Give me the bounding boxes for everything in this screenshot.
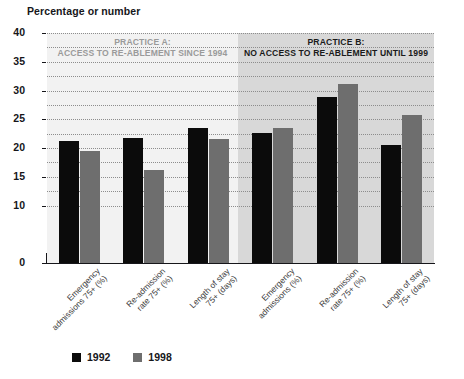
legend-swatch-1992	[72, 353, 81, 362]
y-axis-tick-label: 40	[0, 26, 25, 38]
bar-1998-group-5	[338, 84, 358, 263]
y-axis-tick-label: 0	[0, 256, 25, 268]
legend-label-1998: 1998	[148, 351, 171, 363]
gridline	[47, 91, 434, 92]
bar-1992-group-2	[123, 138, 143, 263]
chart-axis-title: Percentage or number	[27, 5, 140, 17]
bar-1992-group-4	[252, 133, 272, 263]
gridline	[47, 134, 434, 135]
x-axis-category-text: Re-admissionrate 75+ (%)	[124, 266, 174, 316]
x-axis-category-text: Emergencyadmissions 75+ (%)	[43, 266, 109, 332]
gridline	[47, 76, 434, 77]
practice-b-header: PRACTICE B: NO ACCESS TO RE-ABLEMENT UNT…	[238, 37, 434, 58]
chart-figure: Percentage or number PRACTICE A: ACCESS …	[0, 0, 464, 379]
legend-label-1992: 1992	[87, 351, 110, 363]
y-axis-tick-mark	[42, 119, 46, 120]
gridline	[47, 148, 434, 149]
x-axis-category-text: Re-admissionrate 75+ (%)	[317, 266, 367, 316]
plot-area: PRACTICE A: ACCESS TO RE-ABLEMENT SINCE …	[47, 33, 434, 263]
practice-a-header: PRACTICE A: ACCESS TO RE-ABLEMENT SINCE …	[47, 37, 238, 58]
gridline	[47, 105, 434, 106]
legend-item-1992: 1992	[72, 351, 110, 363]
y-axis-tick-label: 35	[0, 55, 25, 67]
gridline	[47, 162, 434, 163]
y-axis-tick-mark	[42, 148, 46, 149]
legend-swatch-1998	[133, 353, 142, 362]
y-axis-tick-label: 15	[0, 170, 25, 182]
practice-b-header-line2: NO ACCESS TO RE-ABLEMENT UNTIL 1999	[238, 48, 434, 59]
x-axis-category-text: Emergencyadmissions (%)	[248, 266, 303, 321]
gridline	[47, 206, 434, 207]
y-axis-tick-mark	[42, 206, 46, 207]
y-axis-line	[46, 253, 47, 264]
gridline	[47, 119, 434, 120]
gridline	[47, 62, 434, 63]
bar-1992-group-1	[59, 141, 79, 263]
legend-item-1998: 1998	[133, 351, 171, 363]
bar-1992-group-5	[317, 97, 337, 263]
y-axis-tick-mark	[42, 177, 46, 178]
y-axis-tick-mark	[42, 91, 46, 92]
gridline	[47, 177, 434, 178]
bar-1998-group-1	[80, 151, 100, 263]
y-axis-tick-label: 10	[0, 199, 25, 211]
bar-1992-group-3	[188, 128, 208, 263]
bar-1998-group-3	[209, 139, 229, 263]
bar-1998-group-2	[144, 170, 164, 263]
gridline	[47, 33, 434, 34]
x-axis-category-text: Length of stay75+ (days)	[187, 266, 238, 317]
y-axis-tick-label: 25	[0, 112, 25, 124]
gridline	[47, 191, 434, 192]
bar-1992-group-6	[381, 145, 401, 263]
y-axis-tick-mark	[42, 33, 46, 34]
practice-b-header-line1: PRACTICE B:	[238, 37, 434, 48]
chart-legend: 19921998	[72, 351, 172, 363]
y-axis-tick-mark	[42, 62, 46, 63]
x-axis-category-text: Length of stay75+ (days)	[381, 266, 432, 317]
y-axis-tick-label: 20	[0, 141, 25, 153]
practice-a-header-line2: ACCESS TO RE-ABLEMENT SINCE 1994	[47, 48, 238, 59]
bar-1998-group-6	[402, 115, 422, 263]
y-axis-tick-label: 30	[0, 84, 25, 96]
practice-a-header-line1: PRACTICE A:	[47, 37, 238, 48]
bar-1998-group-4	[273, 128, 293, 263]
x-axis-line	[47, 263, 435, 264]
